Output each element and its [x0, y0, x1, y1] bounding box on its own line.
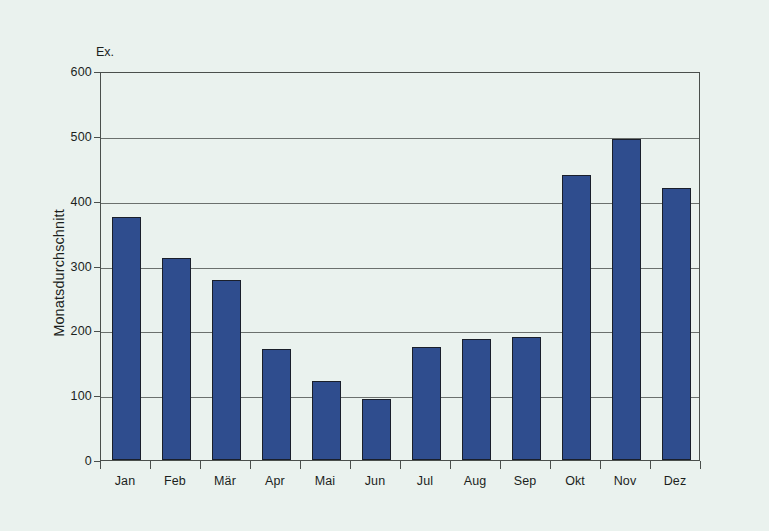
x-axis-tick-mark: [350, 461, 351, 469]
bar-feb: [162, 258, 191, 460]
y-axis-tick-label: 500: [48, 130, 92, 144]
y-axis-tick-label: 200: [48, 324, 92, 338]
x-axis-tick-mark: [400, 461, 401, 469]
bar-dez: [662, 188, 691, 460]
x-axis-tick-mark: [450, 461, 451, 469]
x-axis-tick-mark: [550, 461, 551, 469]
x-axis-tick-label-dez: Dez: [645, 474, 705, 488]
bar-okt: [562, 175, 591, 460]
chart-figure: Monatsdurchschnitt Ex. 60050040030020010…: [0, 0, 769, 531]
bar-apr: [262, 349, 291, 460]
y-axis-tick-label: 0: [48, 454, 92, 468]
bar-aug: [462, 339, 491, 460]
y-axis-tick-labels: 6005004003002001000: [40, 0, 92, 531]
x-axis-tick-mark: [650, 461, 651, 469]
bar-jan: [112, 217, 141, 460]
x-axis-tick-mark: [700, 461, 701, 469]
bar-mär: [212, 280, 241, 460]
plot-area: [100, 72, 700, 461]
x-axis-tick-mark: [500, 461, 501, 469]
y-axis-unit-label: Ex.: [96, 45, 114, 59]
bar-jul: [412, 347, 441, 460]
bar-nov: [612, 139, 641, 460]
bar-series: [101, 73, 699, 460]
x-axis-tick-mark: [600, 461, 601, 469]
x-axis-tick-mark: [100, 461, 101, 469]
y-axis-tick-label: 600: [48, 65, 92, 79]
y-axis-tick-label: 100: [48, 389, 92, 403]
bar-mai: [312, 381, 341, 460]
bar-jun: [362, 399, 391, 460]
x-axis-tick-mark: [250, 461, 251, 469]
x-axis-tick-mark: [200, 461, 201, 469]
x-axis-tick-mark: [150, 461, 151, 469]
bar-sep: [512, 337, 541, 460]
x-axis-tick-mark: [300, 461, 301, 469]
y-axis-tick-label: 400: [48, 195, 92, 209]
y-axis-tick-label: 300: [48, 260, 92, 274]
figure-caption: [0, 0, 769, 9]
